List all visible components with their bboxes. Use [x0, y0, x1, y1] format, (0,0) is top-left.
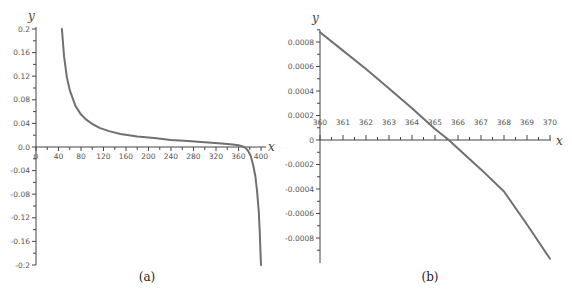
x-tick-label: 363: [382, 118, 397, 127]
x-tick-label: 370: [543, 118, 558, 127]
y-axis-label: y: [311, 11, 319, 25]
x-tick-label: 80: [76, 152, 86, 161]
y-tick-label: -0.2: [15, 261, 30, 270]
chart-caption: (b): [421, 270, 438, 284]
x-axis-label: x: [268, 140, 275, 154]
x-tick-label: 0: [34, 152, 39, 161]
x-tick-label: 364: [405, 118, 420, 127]
x-tick-label: 362: [359, 118, 374, 127]
y-axis-label: y: [27, 9, 35, 23]
y-tick-label: -0.0008: [285, 234, 314, 243]
x-tick-label: 368: [497, 118, 512, 127]
x-tick-label: 320: [209, 152, 224, 161]
x-tick-label: 367: [474, 118, 489, 127]
y-tick-label: 0.04: [13, 119, 30, 128]
x-tick-label: 360: [231, 152, 246, 161]
y-tick-label: -0.0004: [285, 185, 314, 194]
y-tick-label: -0.0002: [285, 160, 314, 169]
y-tick-label: 0.0: [18, 143, 30, 152]
x-tick-label: 200: [141, 152, 156, 161]
y-tick-label: 0.0002: [288, 111, 314, 120]
x-tick-label: 280: [186, 152, 201, 161]
x-tick-label: 369: [520, 118, 535, 127]
y-tick-label: 0.0004: [288, 87, 314, 96]
x-tick-label: 400: [254, 152, 269, 161]
data-curve: [320, 32, 550, 259]
x-tick-label: 40: [54, 152, 64, 161]
y-tick-label: -0.16: [11, 237, 31, 246]
chart-a: 040801201602002402803203604000.20.160.12…: [11, 9, 275, 284]
y-tick-label: -0.08: [11, 190, 31, 199]
x-tick-label: 120: [96, 152, 111, 161]
y-tick-label: -0.12: [11, 213, 31, 222]
y-tick-label: -0.0006: [285, 209, 314, 218]
y-tick-label: 0.0006: [288, 62, 314, 71]
x-tick-label: 361: [336, 118, 351, 127]
y-tick-label: 0.16: [13, 48, 30, 57]
x-axis-label: x: [556, 134, 563, 148]
figure: 040801201602002402803203604000.20.160.12…: [0, 0, 572, 293]
x-tick-label: 366: [451, 118, 466, 127]
x-tick-label: 160: [119, 152, 134, 161]
y-tick-label: -0.04: [11, 166, 31, 175]
x-tick-label: 240: [164, 152, 179, 161]
x-tick-label: 360: [313, 118, 328, 127]
chart-b: 3603613623633643653663673683693700.00080…: [285, 11, 563, 284]
y-tick-label: 0.0008: [288, 38, 314, 47]
y-tick-label: 0.2: [18, 25, 30, 34]
chart-caption: (a): [139, 270, 156, 284]
y-tick-label: 0: [309, 136, 314, 145]
y-tick-label: 0.08: [13, 95, 30, 104]
y-tick-label: 0.12: [13, 72, 30, 81]
